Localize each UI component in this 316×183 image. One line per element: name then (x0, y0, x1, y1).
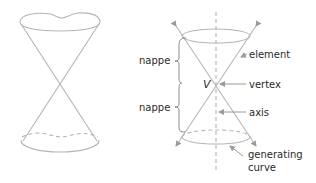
vertex-label: vertex (249, 79, 281, 90)
generating-curve-leader (230, 146, 243, 156)
nappe-upper-label: nappe (139, 55, 170, 66)
left-cone-bottom-curve-front (21, 140, 99, 152)
element-leader (241, 54, 247, 57)
element-label: element (249, 49, 290, 60)
generating-curve-label-line2: curve (248, 162, 276, 173)
right-double-cone (176, 12, 256, 172)
left-cone-bottom-curve-back (22, 133, 98, 137)
nappe-lower-label: nappe (139, 102, 170, 113)
axis-label: axis (249, 107, 269, 118)
left-double-cone (20, 13, 100, 152)
double-cone-diagram: nappe nappe V element vertex axis genera… (0, 0, 316, 183)
left-cone-top-curve (20, 13, 100, 31)
left-cone-element-b (23, 24, 99, 141)
generating-curve-label-line1: generating (248, 149, 303, 160)
left-cone-element-a (21, 24, 97, 141)
nappe-brace (175, 38, 186, 132)
vertex-symbol: V (203, 78, 212, 91)
